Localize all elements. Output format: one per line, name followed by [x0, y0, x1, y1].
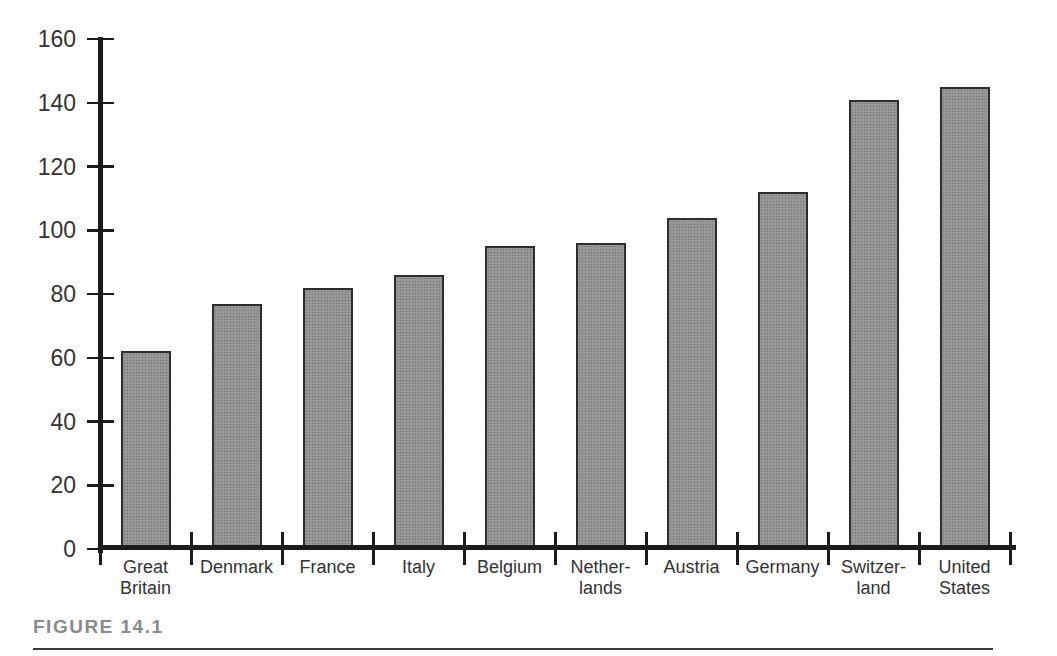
- category-label-united-states: United States: [919, 557, 1010, 599]
- category-label-austria: Austria: [646, 557, 737, 578]
- bar-germany: [758, 192, 808, 547]
- bar-belgium: [485, 246, 535, 547]
- y-axis-label-80: 80: [14, 280, 76, 308]
- category-label-belgium: Belgium: [464, 557, 555, 578]
- bar-great-britain: [121, 351, 171, 547]
- category-label-france: France: [282, 557, 373, 578]
- bar-austria: [667, 218, 717, 548]
- category-label-italy: Italy: [373, 557, 464, 578]
- y-axis-label-0: 0: [14, 535, 76, 563]
- bar-italy: [394, 275, 444, 547]
- figure-caption-rule: [33, 648, 993, 650]
- category-label-denmark: Denmark: [191, 557, 282, 578]
- bar-netherlands: [576, 243, 626, 547]
- category-label-netherlands: Nether- lands: [555, 557, 646, 599]
- y-axis-label-140: 140: [14, 89, 76, 117]
- x-axis-line: [98, 545, 1016, 550]
- bar-united-states: [940, 87, 990, 547]
- y-axis-label-120: 120: [14, 153, 76, 181]
- figure-caption-label: FIGURE 14.1: [33, 616, 164, 638]
- y-axis-label-40: 40: [14, 408, 76, 436]
- y-axis-label-60: 60: [14, 344, 76, 372]
- category-label-great-britain: Great Britain: [100, 557, 191, 599]
- bar-chart: 020406080100120140160Great BritainDenmar…: [0, 0, 1057, 656]
- category-label-switzerland: Switzer- land: [828, 557, 919, 599]
- bar-france: [303, 288, 353, 547]
- bar-switzerland: [849, 100, 899, 547]
- y-axis-label-20: 20: [14, 471, 76, 499]
- category-label-germany: Germany: [737, 557, 828, 578]
- bar-denmark: [212, 304, 262, 547]
- y-axis-label-100: 100: [14, 216, 76, 244]
- y-axis-line: [98, 37, 103, 553]
- figure-page: 020406080100120140160Great BritainDenmar…: [0, 0, 1057, 656]
- y-axis-label-160: 160: [14, 25, 76, 53]
